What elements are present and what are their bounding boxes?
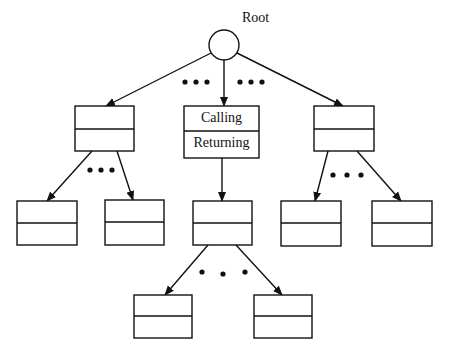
root-label: Root bbox=[242, 10, 269, 26]
edge-left-b bbox=[117, 151, 133, 200]
level1-right-node bbox=[314, 106, 374, 151]
level3-b-node bbox=[254, 295, 312, 338]
edge-right-a bbox=[315, 151, 328, 201]
level2-right-a-node bbox=[281, 201, 341, 246]
level2-right-b-node bbox=[372, 201, 432, 246]
edge-level3-b bbox=[236, 245, 282, 295]
edge-root-left bbox=[106, 53, 211, 106]
edge-root-right bbox=[237, 53, 343, 106]
edge-left-a bbox=[47, 151, 92, 201]
level2-center-node bbox=[193, 201, 252, 245]
call-tree-diagram bbox=[0, 0, 449, 357]
returning-label: Returning bbox=[184, 135, 259, 151]
root-node bbox=[209, 30, 239, 60]
edge-right-b bbox=[357, 151, 401, 201]
level2-left-a-node bbox=[17, 201, 77, 245]
calling-label: Calling bbox=[184, 110, 259, 126]
level2-left-b-node bbox=[105, 200, 164, 245]
level3-a-node bbox=[134, 295, 192, 338]
level1-left-node bbox=[75, 106, 134, 151]
